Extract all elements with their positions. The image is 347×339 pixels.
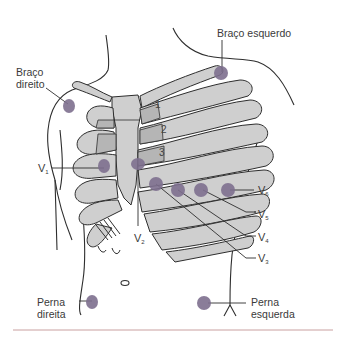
electrode-v6	[221, 183, 235, 197]
label-v5: V5	[258, 208, 269, 224]
electrode-v5	[194, 183, 208, 197]
label-v3: V3	[258, 252, 269, 268]
label-left-leg-line2: esquerda	[251, 308, 295, 320]
electrode-left-leg	[197, 296, 211, 310]
electrode-right-arm	[63, 99, 75, 113]
electrode-v2	[131, 158, 145, 170]
label-v6: V6	[258, 184, 269, 200]
rib-number-2: 2	[161, 124, 167, 135]
electrode-right-leg	[86, 295, 98, 309]
label-v2: V2	[134, 232, 145, 248]
rib-number-3: 3	[159, 147, 165, 158]
label-v4: V4	[258, 231, 269, 247]
label-right-arm-line1: Braço	[16, 66, 43, 78]
label-right-leg-line2: direita	[37, 308, 66, 320]
label-left-leg-line1: Perna	[251, 296, 279, 308]
label-right-arm-line2: direito	[16, 78, 45, 90]
electrode-v4	[171, 183, 185, 197]
electrode-left-arm	[214, 66, 228, 80]
rib-number-1: 1	[155, 99, 161, 110]
label-v1: V1	[38, 162, 49, 178]
electrode-v1	[98, 159, 110, 173]
label-left-arm: Braço esquerdo	[217, 27, 291, 39]
ecg-placement-diagram	[0, 0, 347, 339]
electrode-v3	[149, 177, 163, 191]
label-right-leg-line1: Perna	[37, 296, 65, 308]
